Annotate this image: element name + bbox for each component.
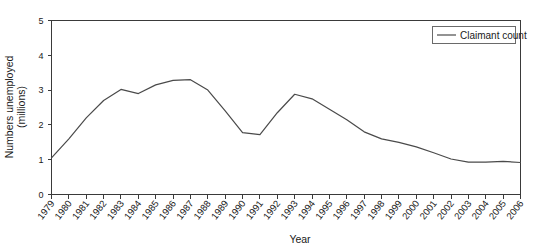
x-tick-label: 1988 [191,198,213,221]
plot-frame [52,21,521,195]
x-tick-label: 2000 [400,198,422,221]
unemployment-line-chart: 012345 197919801981198219831984198519861… [0,0,553,248]
y-axis-ticks [48,21,52,195]
x-tick-label: 1985 [139,198,161,221]
chart-canvas: 012345 197919801981198219831984198519861… [0,0,553,248]
legend-label-claimant-count: Claimant count [460,30,527,41]
x-tick-label: 1987 [174,198,196,221]
x-tick-label: 1996 [330,198,352,221]
x-tick-label: 1990 [226,198,248,221]
x-tick-label: 1980 [52,198,74,221]
x-tick-label: 1981 [70,198,92,221]
x-tick-label: 1983 [104,198,126,221]
x-tick-label: 1979 [35,198,57,221]
y-tick-label: 2 [38,120,43,130]
y-axis-title: Numbers unemployed (millions) [3,55,27,158]
y-tick-label: 0 [38,190,43,200]
x-tick-label: 1984 [122,198,144,221]
x-tick-label: 1998 [365,198,387,221]
y-axis-title-line1: Numbers unemployed [3,55,15,158]
x-tick-label: 1997 [348,198,370,221]
x-tick-label: 2006 [504,198,526,221]
x-tick-label: 1994 [295,198,317,221]
x-tick-label: 2001 [417,198,439,221]
x-tick-label: 1989 [209,198,231,221]
x-tick-label: 2005 [487,198,509,221]
y-tick-label: 3 [38,85,43,95]
y-axis-tick-labels: 012345 [38,16,43,200]
x-tick-label: 1986 [156,198,178,221]
y-axis-title-line2: (millions) [15,86,27,128]
x-axis-ticks [52,195,521,199]
x-tick-label: 2003 [452,198,474,221]
x-tick-label: 1993 [278,198,300,221]
y-tick-label: 5 [38,16,43,26]
x-tick-label: 1995 [313,198,335,221]
series-line-claimant-count [52,80,521,163]
x-tick-label: 1999 [382,198,404,221]
y-tick-label: 4 [38,51,43,61]
x-tick-label: 1991 [243,198,265,221]
y-tick-label: 1 [38,155,43,165]
x-axis-title: Year [289,233,311,245]
x-tick-label: 1982 [87,198,109,221]
chart-legend: Claimant count [433,27,527,44]
x-axis-tick-labels: 1979198019811982198319841985198619871988… [35,198,526,221]
x-tick-label: 1992 [261,198,283,221]
x-tick-label: 2002 [434,198,456,221]
x-tick-label: 2004 [469,198,491,221]
series-group [52,80,521,163]
